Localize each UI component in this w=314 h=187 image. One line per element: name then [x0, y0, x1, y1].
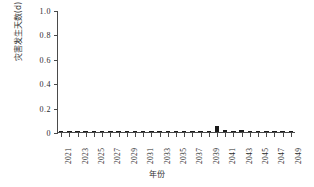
x-tick-label: 2037 — [195, 148, 204, 164]
x-tick-mark — [78, 133, 79, 137]
bar — [198, 131, 203, 132]
y-axis-line — [57, 11, 58, 133]
bar — [207, 131, 212, 132]
x-tick-label: 2039 — [212, 148, 221, 164]
y-tick-label: 0.2 — [40, 104, 52, 113]
bar — [92, 131, 97, 132]
bar — [133, 131, 138, 132]
x-tick-mark — [110, 133, 111, 137]
bar — [141, 131, 146, 132]
plot-area — [57, 11, 295, 133]
bar — [289, 131, 294, 132]
bar — [215, 126, 220, 132]
x-tick-label: 2035 — [179, 148, 188, 164]
x-tick-label: 2033 — [163, 148, 172, 164]
bar — [223, 130, 228, 132]
x-tick-mark — [225, 133, 226, 137]
x-tick-mark — [119, 133, 120, 137]
bar — [231, 131, 236, 132]
x-tick-label: 2049 — [294, 148, 303, 164]
x-tick-mark — [291, 133, 292, 137]
x-tick-mark — [176, 133, 177, 137]
x-axis-title: 年份 — [0, 168, 314, 179]
x-tick-mark — [242, 133, 243, 137]
x-tick-mark — [102, 133, 103, 137]
x-tick-label: 2041 — [228, 148, 237, 164]
bar — [166, 131, 171, 132]
y-axis-tick-labels: 00.20.40.60.81.0 — [0, 0, 55, 140]
x-tick-mark — [209, 133, 210, 137]
x-tick-label: 2031 — [146, 148, 155, 164]
y-tick-mark — [54, 35, 58, 36]
bar — [272, 131, 277, 132]
x-tick-label: 2023 — [81, 148, 90, 164]
bar — [116, 131, 121, 132]
bar — [149, 131, 154, 132]
x-tick-label: 2047 — [277, 148, 286, 164]
x-tick-label: 2025 — [97, 148, 106, 164]
x-tick-label: 2021 — [64, 148, 73, 164]
x-tick-mark — [217, 133, 218, 137]
y-tick-label: 1.0 — [40, 7, 52, 16]
bar — [280, 131, 285, 132]
bar — [157, 131, 162, 132]
x-tick-mark — [233, 133, 234, 137]
bar — [256, 131, 261, 132]
bar — [100, 131, 105, 132]
x-axis-tick-labels: 2021202320252027202920312033203520372039… — [57, 138, 295, 168]
x-tick-label: 2029 — [130, 148, 139, 164]
y-tick-label: 0.6 — [40, 55, 52, 64]
x-tick-mark — [266, 133, 267, 137]
x-tick-label: 2027 — [113, 148, 122, 164]
y-tick-mark — [54, 60, 58, 61]
bar — [174, 131, 179, 132]
x-tick-mark — [274, 133, 275, 137]
bar — [75, 131, 80, 132]
bar — [125, 131, 130, 132]
x-tick-mark — [160, 133, 161, 137]
bar — [248, 131, 253, 132]
x-tick-mark — [151, 133, 152, 137]
x-tick-mark — [184, 133, 185, 137]
x-tick-mark — [168, 133, 169, 137]
bar — [67, 131, 72, 132]
x-tick-label: 2045 — [261, 148, 270, 164]
y-tick-mark — [54, 84, 58, 85]
x-tick-label: 2043 — [245, 148, 254, 164]
chart-figure: 灾害发生天数(d) 00.20.40.60.81.0 2021202320252… — [0, 0, 314, 187]
bar — [182, 131, 187, 132]
y-tick-mark — [54, 11, 58, 12]
x-tick-mark — [69, 133, 70, 137]
x-tick-mark — [135, 133, 136, 137]
x-tick-mark — [86, 133, 87, 137]
x-tick-mark — [61, 133, 62, 137]
y-tick-mark — [54, 109, 58, 110]
bar — [239, 130, 244, 132]
x-tick-mark — [283, 133, 284, 137]
x-tick-mark — [127, 133, 128, 137]
bar — [83, 131, 88, 132]
bar — [108, 131, 113, 132]
x-tick-mark — [258, 133, 259, 137]
bar — [59, 131, 64, 132]
bar — [264, 131, 269, 132]
x-tick-mark — [143, 133, 144, 137]
y-tick-label: 0.8 — [40, 31, 52, 40]
x-tick-mark — [192, 133, 193, 137]
y-tick-label: 0 — [47, 129, 52, 138]
x-tick-mark — [250, 133, 251, 137]
y-tick-label: 0.4 — [40, 80, 52, 89]
bar — [190, 131, 195, 132]
x-tick-mark — [201, 133, 202, 137]
x-tick-mark — [94, 133, 95, 137]
